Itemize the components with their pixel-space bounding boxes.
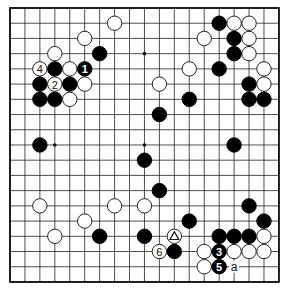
black-stone [212,62,226,76]
black-stone [92,46,106,60]
move-number-label: 6 [156,246,162,258]
white-stone: 4 [33,62,47,76]
white-stone [242,46,256,60]
black-stone [257,214,271,228]
star-point [143,143,147,147]
white-stone [227,16,241,30]
black-stone [63,77,77,91]
black-stone: 3 [212,244,226,258]
black-stone [257,92,271,106]
white-stone [137,199,151,213]
white-stone [107,199,121,213]
star-point [143,52,147,56]
point-label: a [229,260,239,274]
white-stone [257,77,271,91]
white-stone [242,244,256,258]
white-stone [197,244,211,258]
black-stone [48,92,62,106]
black-stone: 5 [212,260,226,274]
white-stone [78,77,92,91]
black-stone [227,46,241,60]
white-stone [257,229,271,243]
go-board: 412635 a [0,0,286,296]
white-stone [197,31,211,45]
move-number-label: 5 [216,261,222,273]
black-stone [167,244,181,258]
black-stone [48,62,62,76]
white-stone [48,229,62,243]
white-stone: 2 [48,77,62,91]
move-number-label: 4 [37,63,43,75]
black-stone [182,214,196,228]
white-stone [152,77,166,91]
white-stone [257,244,271,258]
white-stone [242,31,256,45]
black-stone [182,92,196,106]
black-stone [92,229,106,243]
black-stone [137,229,151,243]
go-board-diagram: 412635 a [0,0,286,296]
black-stone [227,138,241,152]
black-stone [242,92,256,106]
black-stone [33,77,47,91]
black-stone [152,107,166,121]
white-stone: 6 [152,244,166,258]
white-stone [63,62,77,76]
move-number-label: 3 [216,246,222,258]
white-stone [227,244,241,258]
black-stone [33,92,47,106]
white-stone [257,62,271,76]
black-stone [242,199,256,213]
white-stone [78,214,92,228]
black-stone [152,183,166,197]
black-stone [212,229,226,243]
white-stone [182,62,196,76]
black-stone [242,229,256,243]
white-stone [48,46,62,60]
star-point [53,143,57,147]
white-stone [63,92,77,106]
move-number-label: 1 [82,63,88,75]
black-stone [242,77,256,91]
black-stone [227,31,241,45]
black-stone [227,229,241,243]
black-stone: 1 [78,62,92,76]
point-letter-label: a [231,260,238,274]
black-stone [33,138,47,152]
move-number-label: 2 [52,79,58,91]
white-stone [33,199,47,213]
white-stone [78,31,92,45]
black-stone [137,153,151,167]
point-labels-layer: a [229,260,239,274]
white-stone [107,16,121,30]
white-stone [242,16,256,30]
white-stone [197,260,211,274]
black-stone [212,16,226,30]
white-stone [167,229,181,243]
